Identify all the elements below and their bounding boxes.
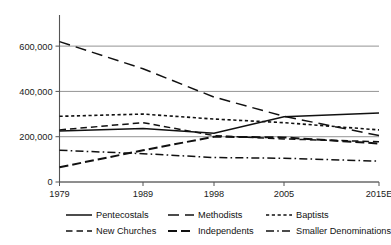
series-line-smaller-denominations [60,150,380,161]
x-tick-label: 1998 [204,189,224,199]
x-tick-label: 2015E [366,189,391,199]
series-line-pentecostals [60,113,380,133]
legend-label-methodists: Methodists [198,210,243,220]
axes [60,15,380,182]
line-chart-figure: 0200,000400,000600,000 19791989199820052… [0,0,391,245]
y-axis-ticks: 0200,000400,000600,000 [19,42,59,188]
legend-label-smaller-denominations: Smaller Denominations [296,226,391,236]
legend-label-pentecostals: Pentecostals [96,210,149,220]
y-tick-label: 0 [47,177,52,187]
x-tick-label: 1989 [133,189,153,199]
series-line-baptists [60,114,380,130]
y-tick-label: 600,000 [19,42,52,52]
data-series [60,42,380,168]
series-line-methodists [60,42,380,136]
y-tick-label: 400,000 [19,87,52,97]
chart-canvas: 0200,000400,000600,000 19791989199820052… [0,0,391,245]
chart-legend: PentecostalsMethodistsBaptistsNew Church… [66,210,391,236]
y-tick-label: 200,000 [19,132,52,142]
gridlines [60,46,380,182]
x-tick-label: 1979 [49,189,69,199]
x-tick-label: 2005 [274,189,294,199]
x-axis-ticks: 19791989199820052015E [49,182,391,199]
legend-label-new-churches: New Churches [96,226,157,236]
legend-label-independents: Independents [198,226,254,236]
series-line-independents [60,137,380,168]
legend-label-baptists: Baptists [296,210,329,220]
